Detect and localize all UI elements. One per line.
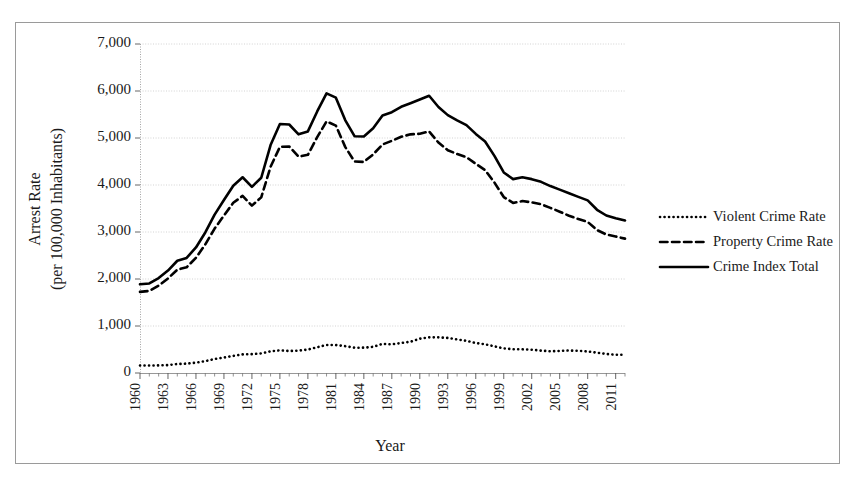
x-tick-label: 1990 xyxy=(408,383,423,411)
y-axis-title-line1: Arrest Rate xyxy=(26,172,43,245)
y-tick-label: 3,000 xyxy=(97,222,131,238)
x-axis-tick-labels: 1960196319661969197219751978198119841987… xyxy=(128,383,619,411)
y-axis-tick-labels: 01,0002,0003,0004,0005,0006,0007,000 xyxy=(97,34,131,379)
x-tick-label: 1999 xyxy=(492,383,507,411)
x-tick-label: 2002 xyxy=(520,383,535,411)
x-axis-title: Year xyxy=(375,437,405,454)
y-axis-ticks xyxy=(135,44,140,373)
chart-canvas: 01,0002,0003,0004,0005,0006,0007,000 196… xyxy=(0,0,855,490)
x-tick-label: 1969 xyxy=(212,383,227,411)
y-tick-label: 5,000 xyxy=(97,128,131,144)
y-tick-label: 7,000 xyxy=(97,34,131,50)
x-tick-label: 1975 xyxy=(268,383,283,411)
x-tick-label: 1981 xyxy=(324,383,339,411)
y-tick-label: 1,000 xyxy=(97,316,131,332)
y-tick-label: 4,000 xyxy=(97,175,131,191)
x-tick-label: 1963 xyxy=(156,383,171,411)
x-tick-label: 2008 xyxy=(576,383,591,411)
y-tick-label: 6,000 xyxy=(97,81,131,97)
y-tick-label: 0 xyxy=(124,363,132,379)
x-tick-label: 1984 xyxy=(352,383,367,411)
legend-label: Crime Index Total xyxy=(713,258,819,274)
x-tick-label: 1972 xyxy=(240,383,255,411)
legend-label: Property Crime Rate xyxy=(713,233,833,249)
x-tick-label: 1993 xyxy=(436,383,451,411)
chart-legend: Violent Crime RateProperty Crime RateCri… xyxy=(660,208,833,274)
y-tick-label: 2,000 xyxy=(97,269,131,285)
x-tick-label: 1996 xyxy=(464,383,479,411)
x-tick-label: 1960 xyxy=(128,383,143,411)
y-axis-title-line2: (per 100,000 Inhabitants) xyxy=(48,128,66,290)
x-tick-label: 1978 xyxy=(296,383,311,411)
x-tick-label: 2005 xyxy=(548,383,563,411)
chart-figure: 01,0002,0003,0004,0005,0006,0007,000 196… xyxy=(0,0,855,490)
legend-label: Violent Crime Rate xyxy=(713,208,826,224)
x-tick-label: 1966 xyxy=(184,383,199,411)
x-tick-label: 1987 xyxy=(380,383,395,411)
x-tick-label: 2011 xyxy=(604,383,619,410)
